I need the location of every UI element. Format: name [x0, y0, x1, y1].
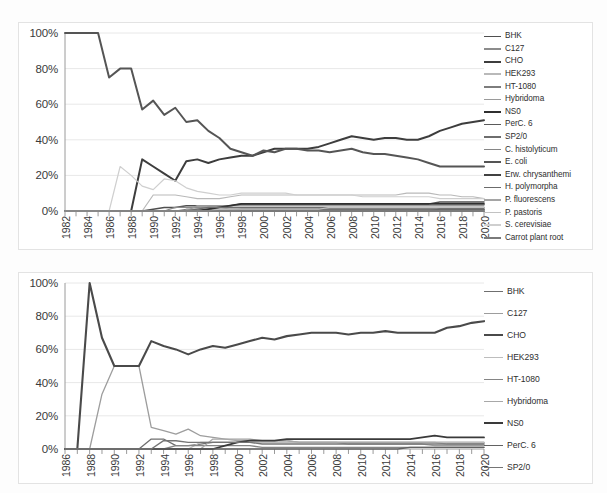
chart-bottom-legend: BHKC127CHOHEK293HT-1080HybridomaNS0PerC.…: [484, 281, 588, 479]
x-tick-label: 1984: [82, 216, 94, 239]
legend-label: Carrot plant root: [505, 234, 563, 242]
legend-color-swatch: [484, 224, 501, 226]
legend-color-swatch: [484, 467, 503, 469]
legend-color-swatch: [484, 334, 503, 336]
chart-top-legend: BHKC127CHOHEK293HT-1080HybridomaNS0PerC.…: [484, 31, 588, 245]
legend-label: Hybridoma: [505, 95, 544, 103]
x-tick-label: 1998: [208, 454, 220, 477]
x-tick-label: 2000: [258, 216, 270, 239]
legend-item[interactable]: SP2/0: [484, 463, 530, 472]
legend-item[interactable]: Carrot plant root: [484, 234, 563, 242]
legend-item[interactable]: PerC. 6: [484, 120, 532, 128]
x-tick-label: 1996: [214, 216, 226, 239]
legend-item[interactable]: NS0: [484, 108, 521, 116]
chart-bottom: 0%20%40%60%80%100% 198619881990199219941…: [18, 272, 593, 484]
legend-color-swatch: [484, 379, 503, 381]
x-tick-label: 2018: [457, 216, 469, 239]
x-tick-label: 1994: [159, 454, 171, 477]
y-tick-label: 80%: [36, 63, 58, 75]
chart-bottom-y-axis: 0%20%40%60%80%100%: [19, 273, 63, 483]
legend-item[interactable]: NS0: [484, 419, 524, 428]
x-tick-label: 2004: [282, 454, 294, 477]
x-tick-label: 2018: [454, 454, 466, 477]
legend-color-swatch: [484, 445, 503, 447]
legend-color-swatch: [484, 48, 501, 50]
legend-color-swatch: [484, 136, 501, 138]
legend-item[interactable]: SP2/0: [484, 133, 527, 141]
legend-item[interactable]: BHK: [484, 32, 522, 40]
legend-item[interactable]: P. pastoris: [484, 209, 542, 217]
legend-item[interactable]: P. fluorescens: [484, 196, 555, 204]
legend-label: HEK293: [505, 70, 535, 78]
series-line: [65, 193, 484, 211]
legend-label: SP2/0: [507, 463, 530, 472]
x-tick-label: 2008: [347, 216, 359, 239]
x-tick-label: 2010: [369, 216, 381, 239]
y-tick-label: 60%: [36, 98, 58, 110]
legend-item[interactable]: CHO: [484, 331, 526, 340]
legend-label: Erw. chrysanthemi: [505, 171, 571, 179]
x-tick-label: 1988: [85, 454, 97, 477]
x-tick-label: 1986: [60, 454, 72, 477]
y-tick-label: 0%: [42, 443, 58, 455]
legend-color-swatch: [484, 401, 503, 403]
legend-label: C127: [507, 309, 527, 318]
legend-color-swatch: [484, 357, 503, 359]
legend-color-swatch: [484, 86, 501, 88]
legend-label: NS0: [505, 108, 521, 116]
legend-item[interactable]: E. coli: [484, 158, 527, 166]
x-tick-label: 2002: [281, 216, 293, 239]
legend-item[interactable]: BHK: [484, 287, 525, 296]
legend-item[interactable]: H. polymorpha: [484, 183, 558, 191]
legend-label: PerC. 6: [507, 441, 536, 450]
x-tick-label: 1988: [126, 216, 138, 239]
x-tick-label: 1982: [60, 216, 72, 239]
series-line: [65, 283, 484, 449]
legend-label: C127: [505, 45, 524, 53]
y-tick-label: 20%: [36, 410, 58, 422]
legend-color-swatch: [484, 174, 501, 176]
chart-top-lines: [65, 33, 484, 211]
legend-color-swatch: [484, 237, 501, 239]
legend-label: CHO: [505, 57, 523, 65]
legend-item[interactable]: Hybridoma: [484, 397, 548, 406]
legend-item[interactable]: S. cerevisiae: [484, 221, 551, 229]
legend-item[interactable]: C127: [484, 45, 524, 53]
legend-item[interactable]: HT-1080: [484, 375, 540, 384]
x-tick-label: 1992: [170, 216, 182, 239]
x-tick-label: 1996: [183, 454, 195, 477]
legend-label: BHK: [505, 32, 522, 40]
legend-color-swatch: [484, 111, 501, 113]
legend-item[interactable]: C127: [484, 309, 527, 318]
y-tick-label: 100%: [29, 27, 58, 39]
y-tick-label: 40%: [36, 377, 58, 389]
legend-label: HT-1080: [505, 83, 536, 91]
series-line: [65, 366, 484, 449]
legend-color-swatch: [484, 149, 501, 151]
legend-item[interactable]: HEK293: [484, 353, 539, 362]
legend-item[interactable]: HEK293: [484, 70, 535, 78]
chart-bottom-x-axis: 1986198819901992199419961998200020022004…: [65, 451, 484, 489]
x-tick-label: 1994: [192, 216, 204, 239]
x-tick-label: 2012: [391, 216, 403, 239]
x-tick-label: 2002: [257, 454, 269, 477]
chart-top-x-axis: 1982198419861988199019921994199619982000…: [65, 213, 484, 259]
y-tick-label: 100%: [29, 277, 58, 289]
legend-item[interactable]: C. histolyticum: [484, 146, 557, 154]
chart-top-svg: [65, 33, 484, 211]
legend-item[interactable]: Hybridoma: [484, 95, 544, 103]
y-tick-label: 80%: [36, 310, 58, 322]
legend-color-swatch: [484, 212, 501, 214]
chart-top-plot-area: 0%20%40%60%80%100% 198219841986198819901…: [19, 23, 592, 249]
legend-label: Hybridoma: [507, 397, 548, 406]
legend-label: P. pastoris: [505, 209, 542, 217]
legend-label: HEK293: [507, 353, 539, 362]
legend-label: HT-1080: [507, 375, 540, 384]
legend-item[interactable]: PerC. 6: [484, 441, 536, 450]
legend-item[interactable]: Erw. chrysanthemi: [484, 171, 571, 179]
legend-item[interactable]: CHO: [484, 57, 523, 65]
legend-color-swatch: [484, 161, 501, 163]
series-line: [65, 120, 484, 211]
legend-color-swatch: [484, 422, 503, 424]
legend-item[interactable]: HT-1080: [484, 83, 536, 91]
